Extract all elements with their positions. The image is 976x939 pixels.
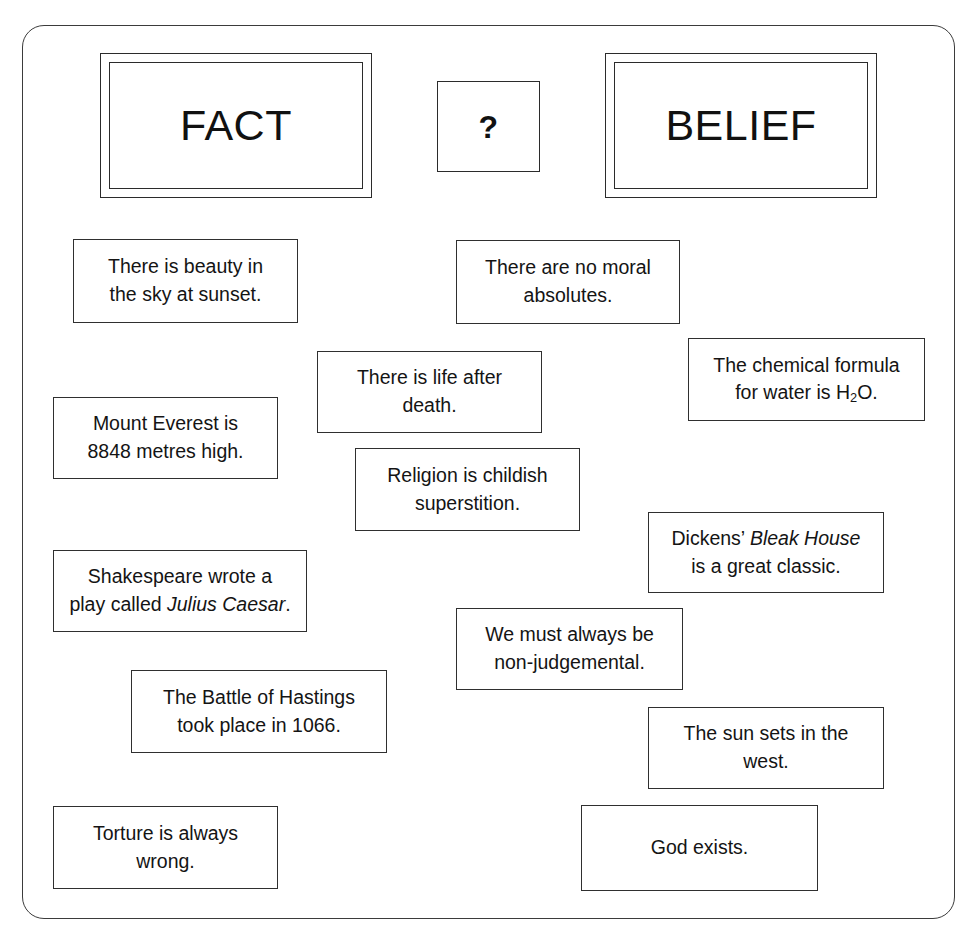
category-card-fact-inner-border: FACT bbox=[109, 62, 363, 189]
statement-text: God exists. bbox=[651, 834, 749, 862]
category-card-belief[interactable]: BELIEF bbox=[605, 53, 877, 198]
statement-card-shakespeare-julius-caesar[interactable]: Shakespeare wrote aplay called Julius Ca… bbox=[53, 550, 307, 632]
statement-text: The sun sets in thewest. bbox=[684, 720, 849, 775]
statement-card-religion-superstition[interactable]: Religion is childishsuperstition. bbox=[355, 448, 580, 531]
worksheet-page: FACT ? BELIEF There is beauty inthe sky … bbox=[0, 0, 976, 939]
statement-text: Torture is alwayswrong. bbox=[93, 820, 238, 875]
statement-card-water-formula[interactable]: The chemical formulafor water is H2O. bbox=[688, 338, 925, 421]
statement-text: There is beauty inthe sky at sunset. bbox=[108, 253, 263, 308]
category-label-question: ? bbox=[478, 111, 498, 143]
statement-text: Shakespeare wrote aplay called Julius Ca… bbox=[69, 563, 290, 618]
statement-card-dickens-bleak-house[interactable]: Dickens’ Bleak Houseis a great classic. bbox=[648, 512, 884, 593]
statement-text: Religion is childishsuperstition. bbox=[387, 462, 547, 517]
statement-text: There is life afterdeath. bbox=[357, 364, 502, 419]
statement-card-sun-sets-west[interactable]: The sun sets in thewest. bbox=[648, 707, 884, 789]
statement-card-mount-everest[interactable]: Mount Everest is8848 metres high. bbox=[53, 397, 278, 479]
category-card-belief-inner-border: BELIEF bbox=[614, 62, 868, 189]
statement-card-torture-wrong[interactable]: Torture is alwayswrong. bbox=[53, 806, 278, 889]
statement-text: The Battle of Hastingstook place in 1066… bbox=[163, 684, 355, 739]
statement-card-god-exists[interactable]: God exists. bbox=[581, 805, 818, 891]
statement-text: There are no moralabsolutes. bbox=[485, 254, 651, 309]
statement-card-battle-of-hastings[interactable]: The Battle of Hastingstook place in 1066… bbox=[131, 670, 387, 753]
statement-card-beauty-sky[interactable]: There is beauty inthe sky at sunset. bbox=[73, 239, 298, 323]
category-card-fact[interactable]: FACT bbox=[100, 53, 372, 198]
statement-text: Dickens’ Bleak Houseis a great classic. bbox=[672, 525, 861, 580]
statement-card-life-after-death[interactable]: There is life afterdeath. bbox=[317, 351, 542, 433]
statement-card-non-judgemental[interactable]: We must always benon-judgemental. bbox=[456, 608, 683, 690]
category-label-fact: FACT bbox=[180, 104, 292, 147]
category-label-belief: BELIEF bbox=[665, 104, 816, 147]
statement-text: We must always benon-judgemental. bbox=[485, 621, 654, 676]
statement-text: The chemical formulafor water is H2O. bbox=[713, 352, 899, 408]
category-card-question[interactable]: ? bbox=[437, 81, 540, 172]
statement-card-no-moral-absolutes[interactable]: There are no moralabsolutes. bbox=[456, 240, 680, 324]
statement-text: Mount Everest is8848 metres high. bbox=[87, 410, 243, 465]
